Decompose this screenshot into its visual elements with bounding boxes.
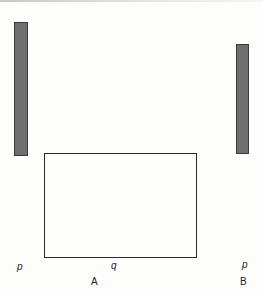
left-bar-p: [14, 22, 28, 156]
label-p-right: p: [242, 260, 248, 270]
right-bar-p: [236, 44, 249, 154]
rectangle-q: [44, 153, 197, 258]
page-edge-line: [0, 0, 263, 2]
label-q: q: [111, 261, 117, 271]
label-p-left: p: [17, 262, 23, 272]
figure-label-a: A: [91, 277, 98, 287]
figure-label-b: B: [240, 277, 247, 287]
